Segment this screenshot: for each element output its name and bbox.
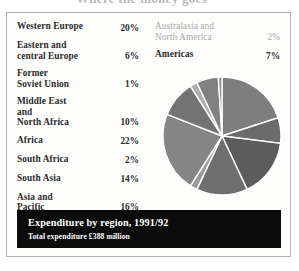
legend-item-label: Eastern and central Europe: [17, 40, 139, 61]
legend-item-value: 22%: [120, 136, 139, 147]
legend-item-value: 2%: [268, 32, 280, 43]
legend-item: Western Europe 20%: [17, 21, 139, 33]
legend-item: Former Soviet Union 1%: [17, 68, 139, 89]
legend-item: South Asia 14%: [17, 173, 139, 185]
legend-item-label: South Africa: [17, 154, 139, 165]
legend-item-value: 20%: [120, 23, 139, 34]
legend-left-column: Western Europe 20% Eastern and central E…: [17, 21, 139, 220]
legend-item-value: 6%: [125, 51, 139, 62]
legend-item: Africa 22%: [17, 135, 139, 147]
cropped-headline-text: Where the money goes: [76, 0, 207, 7]
legend-item: Middle East and North Africa 10%: [17, 96, 139, 128]
pie-chart: [161, 75, 283, 197]
legend-item-value: 1%: [125, 79, 139, 90]
legend-item-label: Former Soviet Union: [17, 68, 139, 89]
caption-subtitle: Total expenditure £388 million: [28, 231, 281, 242]
legend-item: South Africa 2%: [17, 154, 139, 166]
caption-title: Expenditure by region, 1991/92: [28, 216, 281, 229]
legend-item-value: 14%: [120, 174, 139, 185]
legend-item-label: Americas: [155, 49, 280, 60]
figure-frame: Western Europe 20% Eastern and central E…: [6, 12, 291, 257]
pie-chart-svg: [161, 75, 283, 197]
legend-item: Eastern and central Europe 6%: [17, 40, 139, 61]
legend-item-label: Australasia and North America: [155, 21, 280, 42]
legend-item-value: 2%: [125, 155, 139, 166]
legend-item-value: 7%: [266, 51, 280, 62]
legend-right-column: Australasia and North America 2% America…: [155, 21, 280, 68]
legend-item: Americas 7%: [155, 49, 280, 61]
caption-bar: Expenditure by region, 1991/92 Total exp…: [17, 210, 281, 248]
legend-item: Australasia and North America 2%: [155, 21, 280, 42]
legend-item-value: 10%: [120, 117, 139, 128]
cropped-headline: Where the money goes: [0, 0, 299, 7]
